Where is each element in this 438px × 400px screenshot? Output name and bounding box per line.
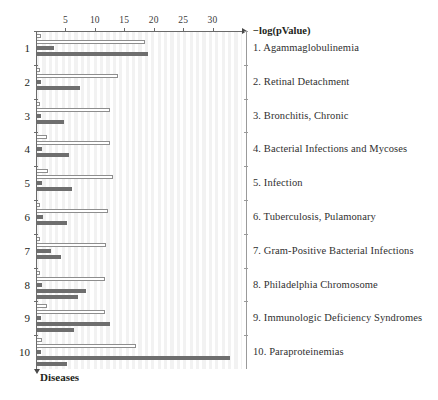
bar [36, 322, 110, 326]
category-tick-mark [244, 65, 248, 66]
disease-label: 4. Bacterial Infections and Mycoses [253, 143, 407, 155]
group-number-label: 3 [6, 110, 30, 122]
bar [36, 215, 43, 219]
bar [36, 304, 47, 308]
y-tick-mark [34, 65, 38, 66]
bar [36, 40, 145, 44]
y-tick-mark [34, 200, 38, 201]
x-tick-label: 15 [112, 15, 136, 25]
bar [36, 356, 230, 360]
bar [36, 153, 69, 157]
bar [36, 362, 67, 366]
category-tick-mark [244, 132, 248, 133]
bar [36, 74, 118, 78]
y-tick-mark [34, 31, 38, 32]
bar [36, 141, 110, 145]
category-tick-mark [244, 335, 248, 336]
bar [36, 52, 148, 56]
group-number-label: 9 [6, 312, 30, 324]
bar [36, 277, 105, 281]
disease-label: 8. Philadelphia Chromosome [253, 279, 378, 291]
bar [36, 175, 113, 179]
category-tick-mark [244, 31, 248, 32]
bar [36, 86, 80, 90]
disease-label: 9. Immunologic Deficiency Syndromes [253, 312, 422, 324]
category-tick-mark [244, 234, 248, 235]
y-tick-mark [34, 99, 38, 100]
category-tick-mark [244, 301, 248, 302]
category-tick-mark [244, 268, 248, 269]
bar [36, 46, 54, 50]
y-tick-mark [34, 301, 38, 302]
bar [36, 187, 72, 191]
grid-stripes [36, 31, 242, 369]
group-number-label: 8 [6, 279, 30, 291]
group-number-label: 7 [6, 245, 30, 257]
group-number-label: 1 [6, 42, 30, 54]
x-tick-label: 30 [201, 15, 225, 25]
x-tick-label: 20 [142, 15, 166, 25]
category-tick-mark [244, 200, 248, 201]
bar [36, 295, 78, 299]
bar [36, 120, 64, 124]
disease-label: 2. Retinal Detachment [253, 76, 349, 88]
disease-label: 1. Agammaglobulinemia [253, 42, 359, 54]
x-tick-label: 25 [171, 15, 195, 25]
bar [36, 221, 67, 225]
bar [36, 169, 48, 173]
bar [36, 249, 51, 253]
category-tick-mark [244, 99, 248, 100]
bar [36, 255, 61, 259]
group-number-label: 10 [6, 346, 30, 358]
disease-label: 7. Gram-Positive Bacterial Infections [253, 245, 414, 257]
bar [36, 243, 106, 247]
plot-area [36, 31, 242, 369]
x-axis-title: −log(pValue) [253, 25, 311, 36]
disease-label: 10. Paraproteinemias [253, 346, 344, 358]
bar [36, 209, 108, 213]
y-axis-title: Diseases [40, 371, 79, 383]
group-number-label: 5 [6, 177, 30, 189]
x-tick-label: 5 [53, 15, 77, 25]
x-tick-label: 10 [83, 15, 107, 25]
disease-label: 6. Tuberculosis, Pulamonary [253, 211, 376, 223]
chart-figure: 51015202530 −log(pValue) Diseases 123456… [0, 0, 438, 400]
bar [36, 289, 86, 293]
group-number-label: 6 [6, 211, 30, 223]
disease-label: 5. Infection [253, 177, 303, 189]
y-tick-mark [34, 268, 38, 269]
x-axis-line [36, 31, 242, 32]
y-axis-arrow-icon [34, 369, 40, 374]
bar [36, 344, 136, 348]
y-tick-mark [34, 132, 38, 133]
bar [36, 135, 47, 139]
y-tick-mark [34, 335, 38, 336]
bar [36, 108, 110, 112]
group-number-label: 2 [6, 76, 30, 88]
y-tick-mark [34, 234, 38, 235]
category-tick-mark [244, 166, 248, 167]
disease-label: 3. Bronchitis, Chronic [253, 110, 349, 122]
bar [36, 328, 74, 332]
group-number-label: 4 [6, 143, 30, 155]
y-tick-mark [34, 166, 38, 167]
bar [36, 310, 105, 314]
